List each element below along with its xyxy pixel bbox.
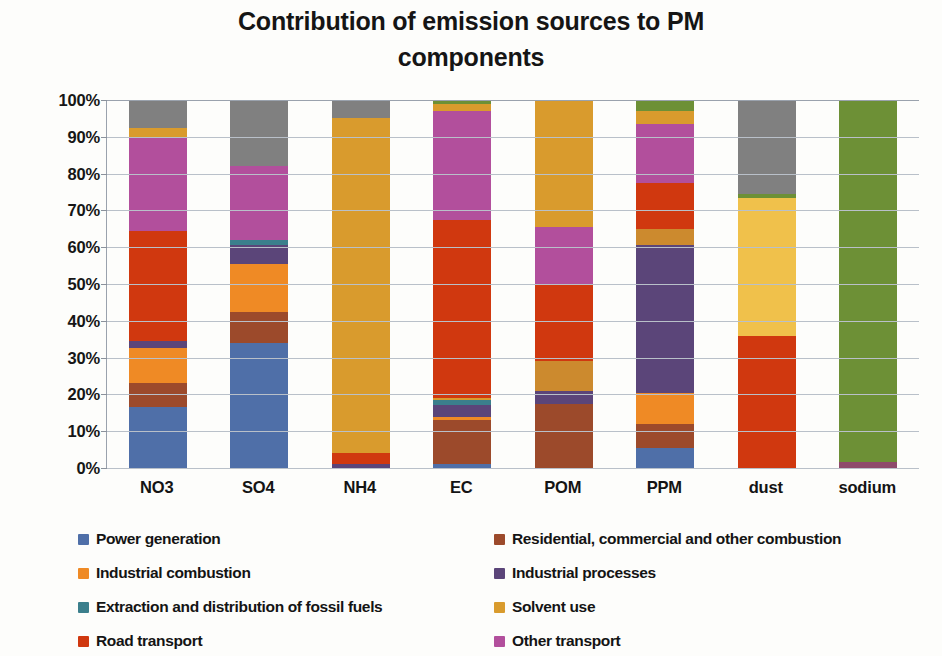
chart-title-line-1: Contribution of emission sources to PM (0, 4, 942, 40)
bar-segment[interactable] (636, 229, 694, 246)
bar-segment[interactable] (535, 404, 593, 468)
x-tick-label: EC (411, 478, 513, 497)
axis-tick (101, 247, 107, 248)
legend-swatch-icon (78, 568, 89, 579)
bar-segment[interactable] (332, 453, 390, 464)
legend-swatch-icon (494, 534, 505, 545)
bar-segment[interactable] (839, 100, 897, 462)
gridline (107, 394, 919, 395)
y-tick-label: 50% (68, 275, 100, 294)
bar-segment[interactable] (738, 336, 796, 468)
axis-tick (101, 321, 107, 322)
legend-item[interactable]: Road transport (78, 624, 494, 656)
chart-title: Contribution of emission sources to PM c… (0, 4, 942, 75)
bar-segment[interactable] (535, 361, 593, 390)
legend-item[interactable]: Solvent use (494, 590, 938, 624)
gridline (107, 321, 919, 322)
bar-segment[interactable] (636, 100, 694, 111)
gridline (107, 100, 919, 101)
axis-tick (101, 284, 107, 285)
bar-segment[interactable] (636, 111, 694, 124)
legend-item[interactable]: Industrial processes (494, 556, 938, 590)
legend-swatch-icon (494, 636, 505, 647)
legend-swatch-icon (78, 636, 89, 647)
gridline (107, 358, 919, 359)
y-tick-label: 0% (77, 459, 100, 478)
legend-label: Road transport (96, 632, 202, 650)
bar-segment[interactable] (636, 183, 694, 229)
legend-item[interactable]: Power generation (78, 522, 494, 556)
axis-tick (101, 394, 107, 395)
x-tick-label: dust (715, 478, 817, 497)
bar-segment[interactable] (230, 264, 288, 312)
plot-wrapper: 100%90%80%70%60%50%40%30%20%10%0% (0, 96, 942, 474)
bar-segment[interactable] (433, 405, 491, 416)
legend-label: Industrial combustion (96, 564, 251, 582)
bar-segment[interactable] (636, 424, 694, 448)
legend-label: Power generation (96, 530, 220, 548)
legend-item[interactable]: Industrial combustion (78, 556, 494, 590)
bar-segment[interactable] (636, 393, 694, 424)
bar-segment[interactable] (636, 245, 694, 392)
y-axis: 100%90%80%70%60%50%40%30%20%10%0% (28, 96, 100, 468)
y-tick-label: 30% (68, 348, 100, 367)
legend-label: Industrial processes (512, 564, 656, 582)
bar-segment[interactable] (129, 128, 187, 137)
bar-segment[interactable] (230, 166, 288, 240)
axis-tick (101, 100, 107, 101)
chart-title-line-2: components (0, 40, 942, 76)
bar-segment[interactable] (129, 348, 187, 383)
legend-label: Residential, commercial and other combus… (512, 530, 841, 548)
bar-segment[interactable] (535, 100, 593, 227)
bar-segment[interactable] (636, 448, 694, 468)
y-tick-label: 20% (68, 385, 100, 404)
y-tick-label: 100% (59, 91, 100, 110)
x-tick-label: SO4 (208, 478, 310, 497)
bar-segment[interactable] (129, 137, 187, 231)
bar-segment[interactable] (433, 104, 491, 111)
x-tick-label: NO3 (106, 478, 208, 497)
bar-segment[interactable] (433, 111, 491, 220)
gridline (107, 174, 919, 175)
gridline (107, 247, 919, 248)
gridline (107, 431, 919, 432)
bar-segment[interactable] (535, 391, 593, 404)
bar-segment[interactable] (433, 420, 491, 464)
axis-tick (101, 137, 107, 138)
axis-tick (101, 468, 107, 469)
chart-container: Contribution of emission sources to PM c… (0, 0, 942, 656)
axis-tick (101, 210, 107, 211)
legend-item[interactable]: Extraction and distribution of fossil fu… (78, 590, 494, 624)
bar-segment[interactable] (535, 284, 593, 361)
legend-label: Other transport (512, 632, 620, 650)
bar-segment[interactable] (535, 227, 593, 284)
bar-segment[interactable] (129, 341, 187, 348)
gridline (107, 210, 919, 211)
bar-segment[interactable] (230, 312, 288, 343)
x-axis: NO3SO4NH4ECPOMPPMdustsodium (106, 478, 918, 497)
bar-segment[interactable] (738, 198, 796, 336)
bar-segment[interactable] (129, 100, 187, 128)
legend-item[interactable]: Other transport (494, 624, 938, 656)
chart-legend: Power generationResidential, commercial … (78, 522, 938, 656)
legend-swatch-icon (494, 602, 505, 613)
legend-swatch-icon (494, 568, 505, 579)
x-tick-label: NH4 (309, 478, 411, 497)
legend-item[interactable]: Residential, commercial and other combus… (494, 522, 938, 556)
legend-label: Solvent use (512, 598, 595, 616)
axis-tick (101, 431, 107, 432)
gridline (107, 468, 919, 469)
bar-segment[interactable] (332, 118, 390, 453)
bar-segment[interactable] (129, 407, 187, 468)
y-tick-label: 70% (68, 201, 100, 220)
axis-tick (101, 174, 107, 175)
bar-segment[interactable] (332, 100, 390, 118)
x-tick-label: PPM (614, 478, 716, 497)
y-tick-label: 90% (68, 127, 100, 146)
axis-tick (101, 358, 107, 359)
bar-segment[interactable] (230, 100, 288, 166)
legend-swatch-icon (78, 602, 89, 613)
bar-segment[interactable] (738, 100, 796, 194)
bar-segment[interactable] (230, 343, 288, 468)
legend-swatch-icon (78, 534, 89, 545)
